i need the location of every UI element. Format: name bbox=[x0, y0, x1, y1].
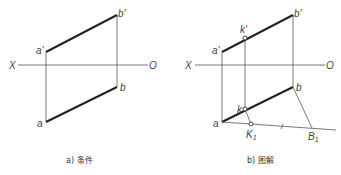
line-ab-front-view bbox=[46, 15, 117, 52]
point-k bbox=[243, 107, 247, 111]
label-b: b bbox=[296, 82, 302, 93]
caption-conditions: a) 条件 bbox=[66, 155, 93, 165]
label-b-prime: b' bbox=[118, 8, 127, 19]
line-ab-top-view bbox=[222, 87, 293, 122]
connector-bB1 bbox=[293, 87, 312, 128]
axis-label-o: O bbox=[149, 60, 157, 71]
auxiliary-line-aB1 bbox=[222, 122, 336, 130]
label-k-prime: k' bbox=[240, 24, 248, 35]
axis-label-o: O bbox=[326, 60, 334, 71]
caption-solution: b) 图解 bbox=[247, 155, 274, 165]
label-a: a bbox=[213, 118, 219, 129]
axis-label-x: X bbox=[184, 60, 192, 71]
line-ab-front-view bbox=[222, 15, 293, 52]
label-b-prime: b' bbox=[294, 8, 303, 19]
label-k: k bbox=[237, 104, 243, 115]
panel-solution: X O a' k' b' b k a K1 B1 b) 图解 bbox=[184, 8, 336, 165]
label-a-prime: a' bbox=[36, 45, 45, 56]
label-B1: B1 bbox=[308, 131, 319, 143]
label-b: b bbox=[120, 82, 126, 93]
projection-diagram: X O a' b' b a a) 条件 X O a' k' b' b k a K… bbox=[0, 0, 341, 175]
label-a: a bbox=[37, 118, 43, 129]
label-a-prime: a' bbox=[212, 45, 221, 56]
point-k-prime bbox=[243, 36, 247, 40]
line-ab-top-view bbox=[46, 87, 117, 122]
point-K1 bbox=[249, 122, 253, 126]
panel-conditions: X O a' b' b a a) 条件 bbox=[8, 8, 157, 165]
axis-label-x: X bbox=[8, 60, 16, 71]
label-K1: K1 bbox=[246, 129, 257, 141]
